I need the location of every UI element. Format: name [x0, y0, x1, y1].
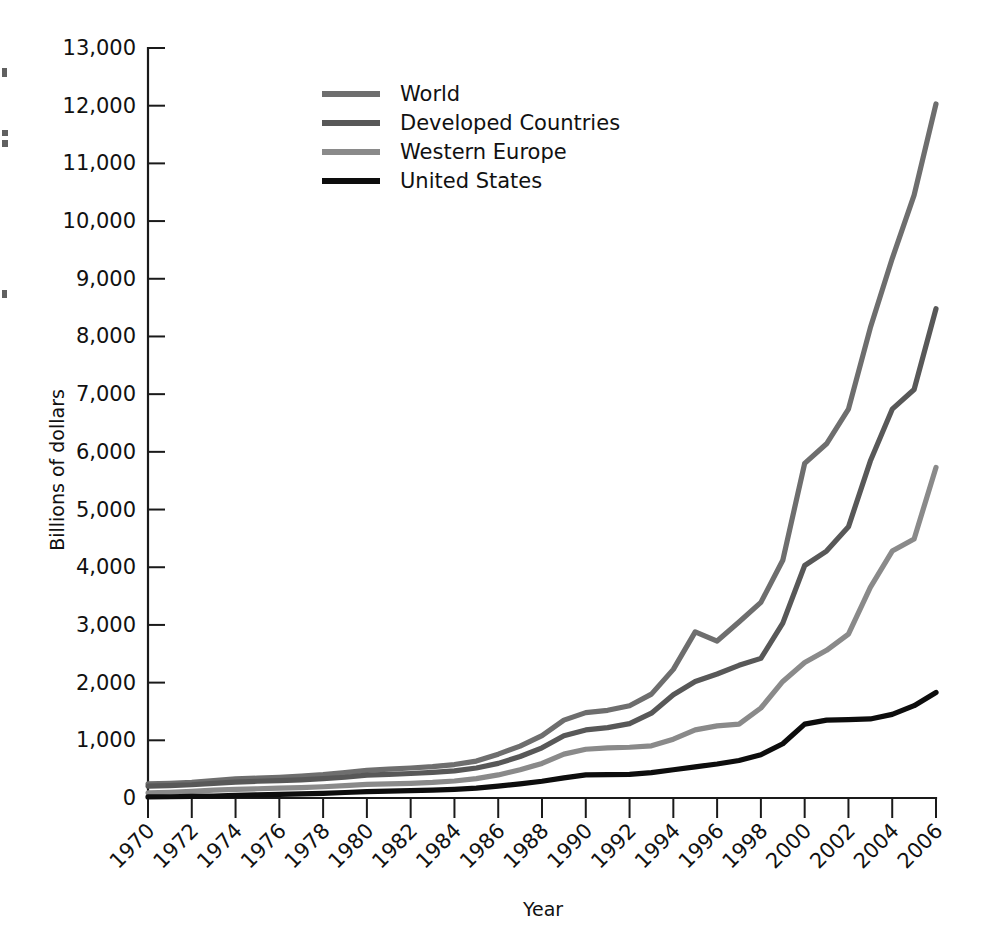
x-axis-tick-label: 1990 [543, 819, 598, 874]
y-axis: 01,0002,0003,0004,0005,0006,0007,0008,00… [63, 36, 165, 810]
chart-legend: WorldDeveloped CountriesWestern EuropeUn… [322, 82, 620, 193]
scan-artifact-4 [2, 290, 7, 298]
y-axis-title: Billions of dollars [46, 389, 68, 551]
series-line-world [148, 104, 936, 784]
series-line-developed-countries [148, 309, 936, 786]
y-axis-tick-label: 8,000 [76, 324, 136, 348]
scan-artifact-1 [2, 68, 7, 77]
y-axis-tick-label: 0 [123, 786, 136, 810]
x-axis-tick-label: 1980 [324, 819, 379, 874]
y-axis-tick-label: 1,000 [76, 728, 136, 752]
x-axis-tick-label: 1974 [192, 819, 247, 874]
y-axis-tick-label: 9,000 [76, 267, 136, 291]
legend-label-world: World [400, 82, 460, 106]
x-axis-tick-label: 1986 [455, 819, 510, 874]
y-axis-tick-label: 7,000 [76, 382, 136, 406]
scan-artifact-3 [2, 140, 8, 147]
y-axis-tick-label: 12,000 [63, 94, 136, 118]
x-axis-tick-label: 2006 [893, 819, 948, 874]
x-axis: 1970197219741976197819801982198419861988… [105, 798, 948, 873]
y-axis-tick-label: 13,000 [63, 36, 136, 60]
x-axis-tick-label: 1994 [630, 819, 685, 874]
x-axis-tick-label: 2004 [849, 819, 904, 874]
y-axis-tick-label: 11,000 [63, 151, 136, 175]
series-lines [148, 104, 936, 797]
chart-figure: 01,0002,0003,0004,0005,0006,0007,0008,00… [0, 0, 1001, 940]
x-axis-tick-label: 1988 [499, 819, 554, 874]
x-axis-tick-label: 1984 [411, 819, 466, 874]
series-line-western-europe [148, 467, 936, 792]
x-axis-tick-label: 1972 [149, 819, 204, 874]
x-axis-tick-label: 2002 [805, 819, 860, 874]
x-axis-title: Year [522, 898, 563, 920]
x-axis-tick-label: 1998 [718, 819, 773, 874]
y-axis-tick-label: 6,000 [76, 440, 136, 464]
x-axis-tick-label: 1982 [367, 819, 422, 874]
x-axis-tick-label: 1992 [586, 819, 641, 874]
y-axis-tick-label: 2,000 [76, 671, 136, 695]
y-axis-tick-label: 10,000 [63, 209, 136, 233]
legend-label-united-states: United States [400, 169, 542, 193]
x-axis-tick-label: 1996 [674, 819, 729, 874]
x-axis-tick-label: 1976 [236, 819, 291, 874]
x-axis-tick-label: 1978 [280, 819, 335, 874]
line-chart-svg: 01,0002,0003,0004,0005,0006,0007,0008,00… [0, 0, 1001, 940]
y-axis-tick-label: 3,000 [76, 613, 136, 637]
y-axis-tick-label: 4,000 [76, 555, 136, 579]
legend-label-western-europe: Western Europe [400, 140, 567, 164]
x-axis-tick-label: 1970 [105, 819, 160, 874]
y-axis-tick-label: 5,000 [76, 498, 136, 522]
scan-artifact-2 [2, 130, 8, 136]
x-axis-tick-label: 2000 [761, 819, 816, 874]
legend-label-developed-countries: Developed Countries [400, 111, 620, 135]
